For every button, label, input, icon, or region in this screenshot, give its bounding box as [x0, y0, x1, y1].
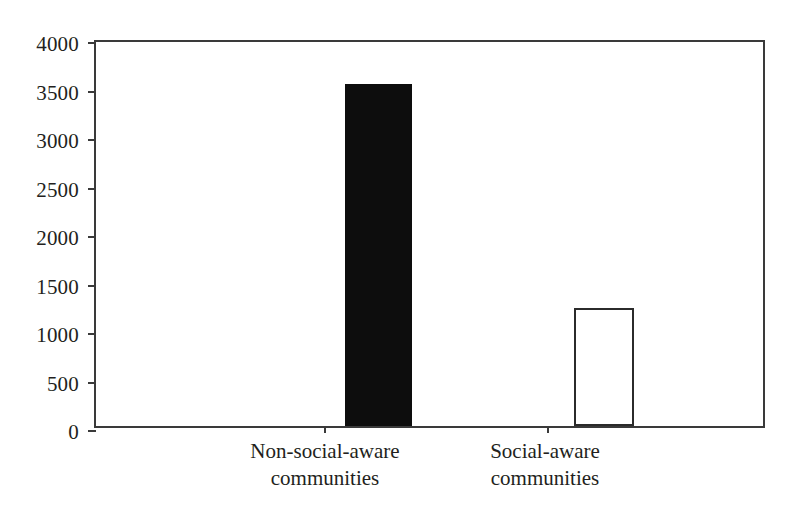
- y-tick-label-500: 500: [47, 371, 79, 397]
- y-tick-1500: 1500: [88, 285, 96, 287]
- x-category-label-line1: Social-aware: [432, 438, 658, 465]
- y-tick-0: 0: [88, 430, 96, 432]
- x-tick-category-2: [547, 426, 549, 433]
- y-tick-label-2000: 2000: [36, 225, 79, 251]
- y-tick-label-2500: 2500: [36, 177, 79, 203]
- y-tick-label-0: 0: [68, 419, 79, 445]
- y-tick-1000: 1000: [88, 333, 96, 335]
- x-category-label-line2: communities: [202, 465, 448, 492]
- y-tick-500: 500: [88, 382, 96, 384]
- x-category-label-social-aware: Social-aware communities: [432, 438, 658, 492]
- y-tick-3000: 3000: [88, 139, 96, 141]
- bar-social-aware[interactable]: [574, 308, 634, 426]
- y-tick-4000: 4000: [88, 42, 96, 44]
- y-tick-label-1500: 1500: [36, 274, 79, 300]
- y-tick-3500: 3500: [88, 91, 96, 93]
- x-category-label-line1: Non-social-aware: [202, 438, 448, 465]
- y-tick-2500: 2500: [88, 188, 96, 190]
- y-tick-2000: 2000: [88, 236, 96, 238]
- bar-non-social-aware[interactable]: [345, 84, 412, 426]
- x-category-label-non-social-aware: Non-social-aware communities: [202, 438, 448, 492]
- x-category-label-line2: communities: [432, 465, 658, 492]
- y-tick-label-1000: 1000: [36, 322, 79, 348]
- bar-chart-figure: 4000 3500 3000 2500 2000 1500 1000 500 0: [0, 0, 805, 513]
- y-tick-label-4000: 4000: [36, 31, 79, 57]
- plot-area: 4000 3500 3000 2500 2000 1500 1000 500 0: [94, 40, 765, 428]
- y-tick-label-3500: 3500: [36, 80, 79, 106]
- x-tick-category-1: [324, 426, 326, 433]
- y-tick-label-3000: 3000: [36, 128, 79, 154]
